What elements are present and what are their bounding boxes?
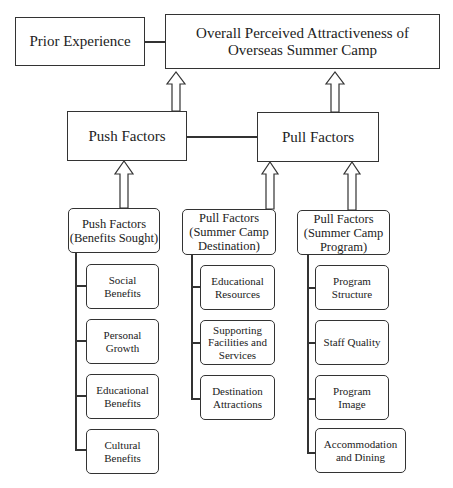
tree-branch [307, 342, 315, 344]
group-title: Push Factors (Benefits Sought) [69, 217, 159, 245]
arrow-push-to-overall [167, 72, 185, 111]
item-label: Supporting Facilities and Services [201, 324, 274, 361]
pull-factors-box: Pull Factors [257, 112, 379, 162]
tree-branch [75, 449, 86, 451]
item-destination-attractions: Destination Attractions [200, 375, 275, 420]
item-program-image: Program Image [315, 375, 389, 420]
item-label: Educational Benefits [87, 384, 158, 409]
item-label: Program Image [316, 385, 388, 410]
item-educational-resources: Educational Resources [200, 265, 275, 310]
group-camp-destination: Pull Factors (Summer Camp Destination) [182, 209, 276, 255]
tree-branch [75, 395, 86, 397]
item-program-structure: Program Structure [315, 265, 389, 310]
item-staff-quality: Staff Quality [315, 320, 389, 365]
tree-trunk-benefits [75, 253, 77, 450]
group-benefits-sought: Push Factors (Benefits Sought) [68, 208, 160, 253]
connector-push-pull [187, 136, 258, 138]
item-social-benefits: Social Benefits [86, 264, 159, 309]
tree-branch [307, 398, 315, 400]
tree-trunk-destination [191, 255, 193, 399]
item-educational-benefits: Educational Benefits [86, 374, 159, 419]
item-label: Destination Attractions [201, 385, 274, 410]
arrow-benefits-to-push [115, 161, 133, 208]
push-factors-label: Push Factors [88, 128, 165, 145]
overall-attractiveness-box: Overall Perceived Attractiveness of Over… [165, 14, 440, 69]
overall-attractiveness-label: Overall Perceived Attractiveness of Over… [174, 25, 431, 59]
item-label: Cultural Benefits [87, 439, 158, 464]
tree-branch [191, 398, 200, 400]
item-label: Accommodation and Dining [316, 438, 405, 463]
push-factors-box: Push Factors [67, 111, 187, 161]
pull-factors-label: Pull Factors [282, 129, 354, 146]
tree-branch [75, 340, 86, 342]
item-label: Staff Quality [324, 336, 381, 348]
arrow-destination-to-pull [262, 162, 278, 209]
group-title: Pull Factors (Summer Camp Destination) [187, 211, 271, 253]
prior-experience-label: Prior Experience [29, 33, 130, 50]
item-label: Personal Growth [87, 329, 158, 354]
prior-experience-box: Prior Experience [15, 17, 145, 66]
item-label: Social Benefits [87, 274, 158, 299]
tree-trunk-program [307, 255, 309, 453]
tree-branch [307, 452, 315, 454]
tree-branch [75, 285, 86, 287]
arrow-pull-to-overall [326, 72, 344, 112]
tree-branch [307, 287, 315, 289]
connector-prior-overall [145, 41, 166, 43]
group-title: Pull Factors (Summer Camp Program) [302, 212, 385, 254]
item-personal-growth: Personal Growth [86, 319, 159, 364]
item-accommodation-dining: Accommodation and Dining [315, 428, 406, 473]
arrow-program-to-pull [344, 162, 360, 210]
item-label: Educational Resources [201, 275, 274, 300]
item-cultural-benefits: Cultural Benefits [86, 429, 159, 474]
item-supporting-facilities: Supporting Facilities and Services [200, 320, 275, 365]
group-camp-program: Pull Factors (Summer Camp Program) [297, 210, 390, 255]
item-label: Program Structure [316, 275, 388, 300]
tree-branch [191, 342, 200, 344]
tree-branch [191, 286, 200, 288]
